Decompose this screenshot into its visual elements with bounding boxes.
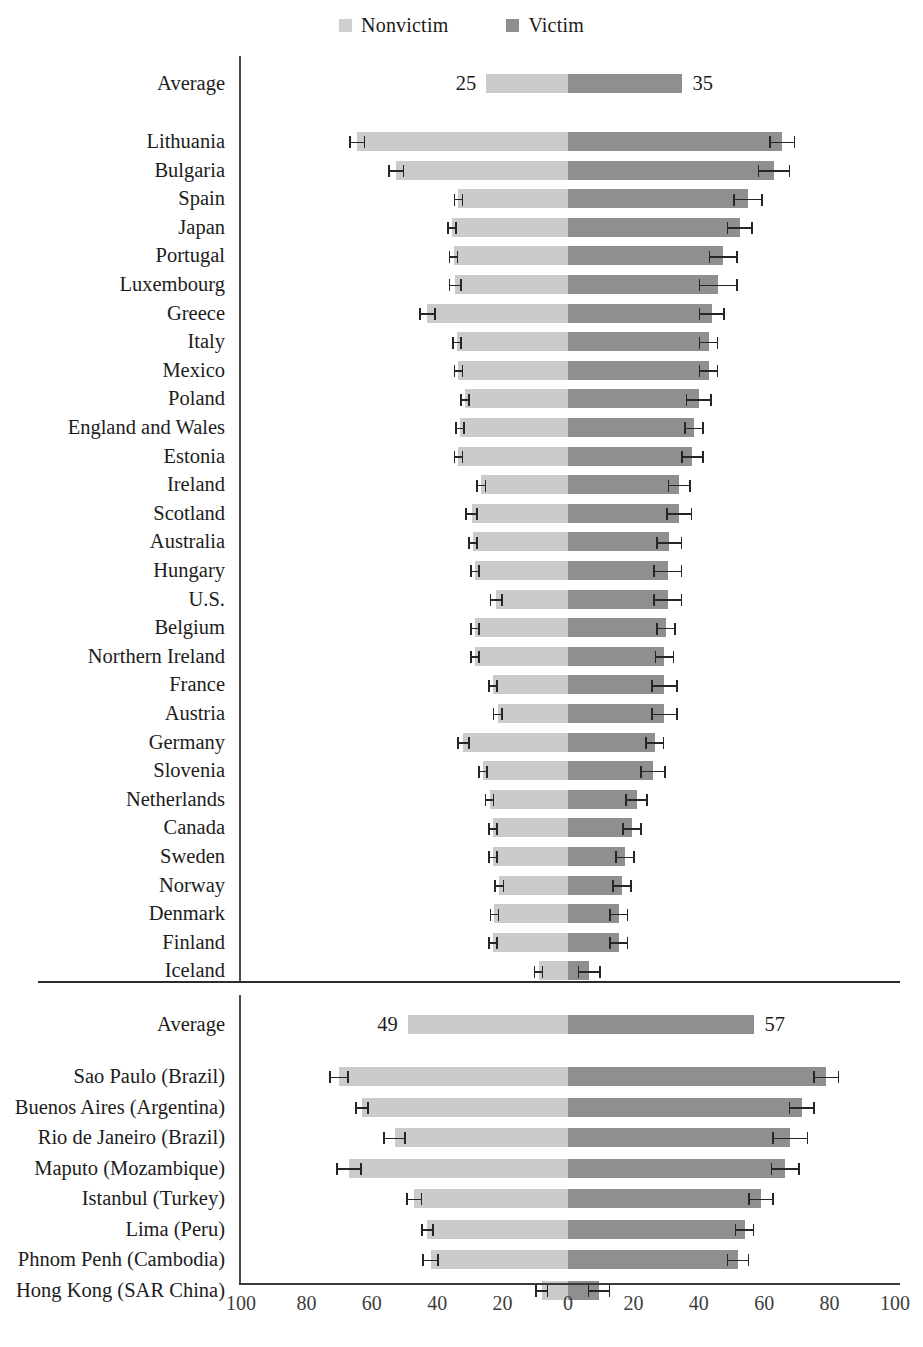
bar-row: England and Wales — [0, 412, 923, 442]
bar-victim — [568, 332, 709, 351]
error-bar-nonvictim — [457, 742, 470, 744]
error-bar-nonvictim — [421, 1229, 434, 1231]
row-plot-area — [239, 898, 900, 928]
x-axis-tick-label: 0 — [563, 1292, 573, 1315]
error-bar-victim — [651, 714, 677, 716]
row-plot-area — [239, 612, 900, 642]
bar-nonvictim — [499, 876, 568, 895]
bar-nonvictim — [431, 1250, 568, 1269]
bar-nonvictim — [427, 304, 568, 323]
bar-victim — [568, 189, 748, 208]
bar-row: Netherlands — [0, 784, 923, 814]
row-label: Average — [0, 1009, 225, 1039]
bar-row: Scotland — [0, 498, 923, 528]
row-label: Greece — [0, 298, 225, 328]
error-bar-victim — [789, 1107, 815, 1109]
row-plot-area — [239, 269, 900, 299]
bar-row: Spain — [0, 183, 923, 213]
error-bar-nonvictim — [468, 542, 478, 544]
bar-victim — [568, 304, 712, 323]
legend-item-victim: Victim — [506, 14, 584, 37]
error-bar-nonvictim — [336, 1168, 362, 1170]
bar-row: Hungary — [0, 555, 923, 585]
row-label: Lima (Peru) — [0, 1214, 225, 1244]
row-plot-area: 4957 — [239, 1009, 900, 1039]
bar-victim — [568, 1128, 790, 1147]
row-plot-area — [239, 126, 900, 156]
bar-nonvictim — [414, 1189, 568, 1208]
bar-row: Maputo (Mozambique) — [0, 1153, 923, 1183]
bar-nonvictim — [395, 1128, 568, 1147]
x-axis-tick-label: 20 — [493, 1292, 513, 1315]
bar-nonvictim — [475, 561, 568, 580]
error-bar-nonvictim — [422, 1260, 438, 1262]
row-label: Maputo (Mozambique) — [0, 1153, 225, 1183]
row-plot-area — [239, 555, 900, 585]
error-bar-nonvictim — [478, 771, 488, 773]
error-bar-nonvictim — [455, 428, 465, 430]
x-axis-tick-label: 100 — [880, 1292, 910, 1315]
bar-row: Canada — [0, 812, 923, 842]
bar-row: Northern Ireland — [0, 641, 923, 671]
legend-label-victim: Victim — [528, 14, 584, 37]
bar-victim — [568, 704, 664, 723]
error-bar-victim — [699, 370, 719, 372]
row-label: Poland — [0, 383, 225, 413]
row-label: Belgium — [0, 612, 225, 642]
row-plot-area — [239, 784, 900, 814]
bar-nonvictim — [339, 1067, 568, 1086]
row-plot-area — [239, 326, 900, 356]
row-plot-area — [239, 355, 900, 385]
bar-victim — [568, 161, 774, 180]
row-plot-area — [239, 1214, 900, 1244]
error-bar-nonvictim — [534, 971, 544, 973]
bar-row: Sweden — [0, 841, 923, 871]
bar-victim — [568, 1189, 761, 1208]
x-axis-tick-label: 80 — [820, 1292, 840, 1315]
row-plot-area — [239, 240, 900, 270]
bar-row: France — [0, 669, 923, 699]
bar-nonvictim — [458, 447, 568, 466]
bar-row: Lima (Peru) — [0, 1214, 923, 1244]
error-bar-nonvictim — [419, 313, 435, 315]
error-bar-victim — [709, 256, 738, 258]
row-plot-area — [239, 669, 900, 699]
bar-row: Norway — [0, 870, 923, 900]
error-bar-victim — [748, 1199, 774, 1201]
error-bar-victim — [615, 857, 635, 859]
bar-row: Buenos Aires (Argentina) — [0, 1092, 923, 1122]
bar-nonvictim — [493, 847, 568, 866]
row-label: Mexico — [0, 355, 225, 385]
x-axis-tick-label: 60 — [754, 1292, 774, 1315]
bar-row: Sao Paulo (Brazil) — [0, 1061, 923, 1091]
error-bar-victim — [733, 199, 762, 201]
bar-row-average: Average4957 — [0, 1009, 923, 1039]
error-bar-victim — [699, 313, 725, 315]
row-label: U.S. — [0, 584, 225, 614]
bar-row: Italy — [0, 326, 923, 356]
bar-victim — [568, 218, 740, 237]
value-label-nonvictim: 25 — [424, 68, 476, 98]
row-plot-area — [239, 298, 900, 328]
error-bar-victim — [727, 1260, 750, 1262]
error-bar-nonvictim — [488, 828, 498, 830]
error-bar-nonvictim — [490, 599, 503, 601]
row-plot-area — [239, 412, 900, 442]
row-plot-area — [239, 183, 900, 213]
bar-nonvictim — [498, 704, 568, 723]
row-plot-area — [239, 727, 900, 757]
bar-row: Finland — [0, 927, 923, 957]
row-plot-area: 2535 — [239, 68, 900, 98]
bar-nonvictim — [460, 418, 568, 437]
row-plot-area — [239, 1061, 900, 1091]
bar-victim — [568, 389, 699, 408]
x-axis-tick-label: 80 — [296, 1292, 316, 1315]
bar-victim — [568, 132, 782, 151]
error-bar-victim — [622, 828, 642, 830]
error-bar-victim — [609, 942, 629, 944]
bar-nonvictim — [481, 475, 568, 494]
bar-victim — [568, 733, 655, 752]
bar-nonvictim — [475, 647, 568, 666]
chart-legend: Nonvictim Victim — [0, 14, 923, 37]
error-bar-victim — [769, 142, 795, 144]
